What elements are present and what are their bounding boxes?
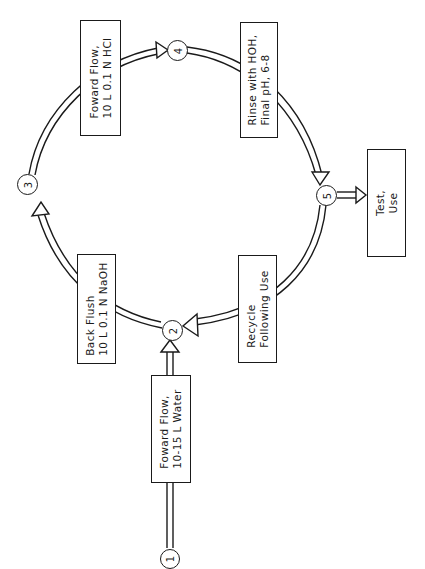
- step-forward-flow-water: Foward Flow, 10-15 L Water: [151, 375, 191, 483]
- step-rinse: Rinse with HOH, Final pH, 6-8: [240, 22, 278, 138]
- step-rinse-text: Rinse with HOH, Final pH, 6-8: [246, 34, 272, 125]
- node-3-label: 3: [22, 181, 33, 187]
- node-2: 2: [162, 320, 183, 341]
- step-recycle-text: Recycle Following Use: [245, 270, 271, 347]
- node-4-label: 4: [172, 47, 183, 53]
- node-5-label: 5: [321, 192, 332, 198]
- step-back-flush: Back Flush 10 L 0.1 N NaOH: [77, 254, 116, 364]
- step-test-use: Test, Use: [367, 149, 406, 257]
- node-1: 1: [160, 549, 180, 569]
- step-forward-flow-hcl-text: Foward Flow, 10 L 0.1 N HCl: [88, 38, 114, 119]
- node-4: 4: [167, 40, 188, 61]
- step-back-flush-text: Back Flush 10 L 0.1 N NaOH: [84, 262, 110, 356]
- node-2-label: 2: [167, 327, 178, 333]
- node-1-label: 1: [165, 556, 176, 562]
- step-forward-flow-hcl: Foward Flow, 10 L 0.1 N HCl: [80, 20, 121, 136]
- step-test-use-text: Test, Use: [374, 190, 400, 216]
- step-recycle: Recycle Following Use: [238, 255, 277, 363]
- connector-5-to-test: [337, 187, 366, 203]
- node-3: 3: [17, 174, 38, 195]
- step-forward-flow-water-text: Foward Flow, 10-15 L Water: [158, 389, 184, 468]
- node-5: 5: [316, 185, 337, 206]
